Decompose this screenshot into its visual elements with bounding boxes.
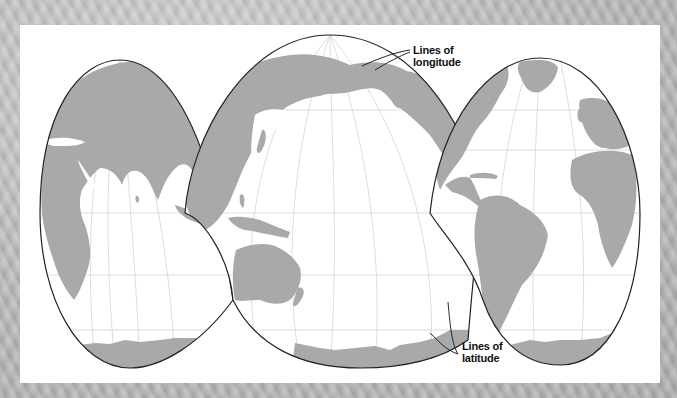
latitude-label-line1: Lines of <box>462 340 503 352</box>
longitude-annotation: Lines of longitude <box>413 44 461 68</box>
latitude-label-line2: latitude <box>462 352 503 364</box>
longitude-label-line2: longitude <box>413 56 461 68</box>
world-map <box>0 0 677 398</box>
longitude-label-line1: Lines of <box>413 44 461 56</box>
latitude-annotation: Lines of latitude <box>462 340 503 364</box>
